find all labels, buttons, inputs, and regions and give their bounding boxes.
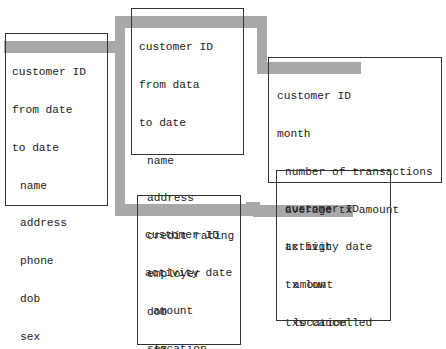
record-activity-1: customer ID activity date amount locatio…: [145, 204, 232, 349]
key-field: customer ID: [12, 66, 86, 79]
key-field: customer ID: [139, 41, 234, 54]
header-field: from data: [139, 79, 234, 92]
field: name: [139, 155, 234, 168]
field: location: [145, 343, 232, 349]
record-customer-1: customer ID from date to date name addre…: [12, 41, 86, 349]
field: amount: [285, 279, 374, 292]
field: address: [12, 217, 86, 230]
field: dob: [12, 293, 86, 306]
header-field: from date: [12, 104, 86, 117]
header-field: month: [277, 128, 433, 141]
field: phone: [12, 255, 86, 268]
key-field: customer ID: [277, 90, 433, 103]
header-field: to date: [12, 142, 86, 155]
header-field: activity date: [285, 241, 374, 254]
key-field: customer ID: [145, 229, 232, 242]
field: location: [285, 317, 374, 330]
field: name: [12, 180, 86, 193]
header-field: to date: [139, 117, 234, 130]
field: sex: [12, 331, 86, 344]
key-connector-vertical-left: [115, 16, 125, 216]
record-activity-2: customer ID activity date amount locatio…: [285, 178, 374, 349]
key-field: customer ID: [285, 203, 374, 216]
header-field: activity date: [145, 267, 232, 280]
field: amount: [145, 305, 232, 318]
